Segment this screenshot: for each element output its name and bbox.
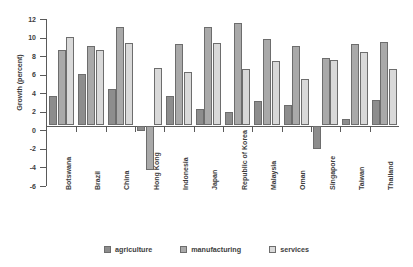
- bar-services: [125, 43, 133, 125]
- bar-manufacturing: [175, 44, 183, 125]
- y-tick-label: 12: [0, 16, 36, 23]
- x-tick-label: Malaysia: [270, 161, 277, 190]
- bar-agriculture: [166, 96, 174, 125]
- bar-group: [284, 19, 309, 185]
- y-tick-label: -6: [0, 183, 36, 190]
- bar-services: [330, 60, 338, 125]
- bar-services: [301, 79, 309, 125]
- y-tick-mark: [40, 186, 46, 187]
- x-tick-mark: [135, 127, 136, 132]
- bar-agriculture: [49, 96, 57, 125]
- x-tick-mark: [164, 127, 165, 132]
- bar-manufacturing: [116, 27, 124, 125]
- x-tick-mark: [106, 127, 107, 132]
- y-tick-label: -4: [0, 164, 36, 171]
- y-tick-label: 6: [0, 71, 36, 78]
- y-tick-label: 8: [0, 53, 36, 60]
- bar-manufacturing: [263, 39, 271, 125]
- bar-services: [360, 52, 368, 125]
- x-tick-mark: [76, 127, 77, 132]
- y-axis-title: Growth (percent): [15, 28, 24, 138]
- x-tick-label: Indonesia: [182, 157, 189, 190]
- x-tick-label: Taiwan: [358, 167, 365, 190]
- bar-agriculture: [137, 126, 145, 131]
- x-tick-label: China: [123, 171, 130, 190]
- y-tick-mark: [40, 130, 46, 131]
- legend-label: services: [280, 246, 309, 253]
- bar-manufacturing: [322, 58, 330, 125]
- bar-agriculture: [225, 112, 233, 125]
- bar-services: [154, 68, 162, 125]
- x-tick-label: Brazil: [94, 171, 101, 190]
- x-tick-label: Hong Kong: [153, 152, 160, 190]
- bar-group: [108, 19, 133, 185]
- y-tick-mark: [40, 19, 46, 20]
- y-tick-mark: [40, 112, 46, 113]
- bar-manufacturing: [58, 50, 66, 125]
- x-tick-label: Botswana: [65, 157, 72, 190]
- x-tick-mark: [311, 127, 312, 132]
- x-tick-mark: [252, 127, 253, 132]
- legend-item-agriculture[interactable]: agriculture: [104, 246, 152, 253]
- y-tick-mark: [40, 93, 46, 94]
- plot-area: [47, 19, 399, 185]
- bar-services: [272, 61, 280, 125]
- bar-services: [184, 72, 192, 125]
- y-tick-mark: [40, 56, 46, 57]
- chart-legend: agriculturemanufacturingservices: [0, 246, 413, 253]
- bar-agriculture: [284, 105, 292, 125]
- bar-manufacturing: [351, 44, 359, 125]
- x-tick-label: Oman: [299, 170, 306, 190]
- bar-agriculture: [78, 74, 86, 125]
- y-tick-mark: [40, 167, 46, 168]
- bar-services: [389, 69, 397, 125]
- bar-manufacturing: [87, 46, 95, 125]
- x-tick-label: Singapore: [329, 156, 336, 190]
- bar-agriculture: [313, 126, 321, 149]
- bar-manufacturing: [204, 27, 212, 125]
- y-tick-label: 0: [0, 127, 36, 134]
- legend-item-manufacturing[interactable]: manufacturing: [180, 246, 241, 253]
- bar-services: [213, 43, 221, 125]
- x-tick-mark: [194, 127, 195, 132]
- bar-manufacturing: [292, 46, 300, 125]
- bar-agriculture: [372, 100, 380, 125]
- legend-swatch-icon: [269, 246, 276, 253]
- legend-label: agriculture: [115, 246, 152, 253]
- legend-swatch-icon: [180, 246, 187, 253]
- bar-services: [66, 37, 74, 125]
- legend-label: manufacturing: [191, 246, 241, 253]
- bar-services: [242, 69, 250, 125]
- y-tick-label: -2: [0, 145, 36, 152]
- bar-chart: Growth (percent) 121086420-2-4-6 Botswan…: [0, 0, 413, 267]
- bar-services: [96, 50, 104, 125]
- bar-agriculture: [108, 89, 116, 125]
- x-tick-mark: [223, 127, 224, 132]
- x-tick-label: Japan: [211, 170, 218, 190]
- y-tick-label: 10: [0, 34, 36, 41]
- bar-agriculture: [342, 119, 350, 125]
- legend-item-services[interactable]: services: [269, 246, 309, 253]
- legend-swatch-icon: [104, 246, 111, 253]
- y-tick-mark: [40, 38, 46, 39]
- y-tick-mark: [40, 149, 46, 150]
- y-tick-label: 4: [0, 90, 36, 97]
- bar-agriculture: [196, 109, 204, 125]
- bar-manufacturing: [380, 42, 388, 126]
- bar-group: [372, 19, 397, 185]
- bar-group: [196, 19, 221, 185]
- x-tick-mark: [340, 127, 341, 132]
- y-tick-mark: [40, 75, 46, 76]
- bar-group: [78, 19, 103, 185]
- bar-manufacturing: [234, 23, 242, 125]
- x-tick-mark: [282, 127, 283, 132]
- bar-agriculture: [254, 101, 262, 125]
- x-tick-label: Thailand: [387, 161, 394, 190]
- bar-group: [342, 19, 367, 185]
- x-tick-label: Republic of Korea: [241, 130, 248, 190]
- x-tick-mark: [370, 127, 371, 132]
- y-tick-label: 2: [0, 108, 36, 115]
